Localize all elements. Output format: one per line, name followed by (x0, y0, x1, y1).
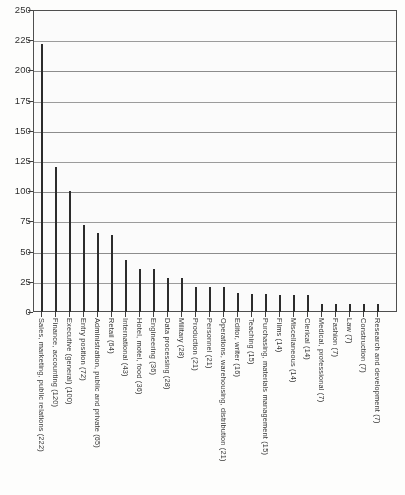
x-axis-category-label: Miscellaneous (14) (290, 318, 297, 383)
x-tick-mark (307, 312, 308, 317)
y-axis-labels: 0255075100125150175200225250 (0, 0, 31, 495)
x-tick-mark (223, 312, 224, 317)
x-axis-category-label: Medical, professional (7) (318, 318, 325, 402)
y-tick-label: 100 (1, 186, 31, 196)
x-tick-mark (139, 312, 140, 317)
bar (321, 304, 323, 312)
bars-layer (33, 10, 397, 312)
x-axis-category-label: Editor, writer (16) (234, 318, 241, 377)
bar (41, 44, 43, 312)
y-tick-label: 125 (1, 156, 31, 166)
bar (181, 278, 183, 312)
bar (223, 287, 225, 312)
x-axis-category-label: Clerical (14) (304, 318, 311, 360)
y-tick-label: 200 (1, 65, 31, 75)
x-tick-mark (293, 312, 294, 317)
x-axis-category-label: Entry position (72) (80, 318, 87, 381)
bar (111, 235, 113, 312)
x-tick-mark (335, 312, 336, 317)
x-tick-mark (321, 312, 322, 317)
bar (83, 225, 85, 312)
x-tick-mark (167, 312, 168, 317)
x-tick-mark (363, 312, 364, 317)
x-tick-mark (209, 312, 210, 317)
x-tick-mark (153, 312, 154, 317)
bar (335, 304, 337, 312)
x-axis-labels: Sales, marketing, public relations (222)… (33, 318, 397, 495)
bar (125, 260, 127, 312)
y-tick-label: 150 (1, 126, 31, 136)
x-tick-mark (237, 312, 238, 317)
bar (139, 269, 141, 312)
x-tick-mark (349, 312, 350, 317)
x-tick-mark (83, 312, 84, 317)
bar (153, 269, 155, 312)
x-tick-mark (41, 312, 42, 317)
x-tick-mark (111, 312, 112, 317)
y-tick-label: 0 (1, 307, 31, 317)
x-tick-mark (377, 312, 378, 317)
y-tick-label: 50 (1, 247, 31, 257)
x-axis-category-label: Production (21) (192, 318, 199, 371)
x-axis-category-label: Sales, marketing, public relations (222) (38, 318, 45, 452)
x-tick-mark (279, 312, 280, 317)
x-tick-mark (251, 312, 252, 317)
bar (251, 294, 253, 312)
bar (167, 278, 169, 312)
bar (237, 293, 239, 312)
x-axis-category-label: Administration, public and private (65) (94, 318, 101, 448)
x-axis-category-label: Hotel, motel, food (36) (136, 318, 143, 395)
x-axis-category-label: Purchasing, materials management (15) (262, 318, 269, 455)
bar (293, 295, 295, 312)
bar (279, 295, 281, 312)
y-tick-label: 75 (1, 216, 31, 226)
x-axis-category-label: Engineering (36) (150, 318, 157, 375)
x-axis-category-label: Executive (general) (100) (66, 318, 73, 405)
x-tick-mark (55, 312, 56, 317)
x-axis-category-label: Operations, warehousing, distribution (2… (220, 318, 227, 462)
x-axis-category-label: Retail (64) (108, 318, 115, 354)
bar (307, 295, 309, 312)
x-axis-category-label: Construction (7) (360, 318, 367, 373)
x-tick-mark (181, 312, 182, 317)
x-axis-category-label: Teaching (15) (248, 318, 255, 365)
bar (363, 304, 365, 312)
bar (265, 294, 267, 312)
bar-chart: 0255075100125150175200225250 Sales, mark… (0, 0, 405, 495)
x-axis-category-label: Data processing (28) (164, 318, 171, 390)
x-tick-mark (265, 312, 266, 317)
y-tick-label: 175 (1, 96, 31, 106)
x-tick-mark (69, 312, 70, 317)
y-tick-label: 25 (1, 277, 31, 287)
x-axis-category-label: Personnel (21) (206, 318, 213, 369)
x-axis-category-label: Films (14) (276, 318, 283, 352)
bar (377, 304, 379, 312)
x-tick-mark (97, 312, 98, 317)
bar (209, 287, 211, 312)
bar (349, 304, 351, 312)
bar (97, 233, 99, 312)
y-tick-label: 250 (1, 5, 31, 15)
x-axis-category-label: Law (7) (346, 318, 353, 344)
x-axis-category-label: Research and development (7) (374, 318, 381, 424)
x-axis-category-label: Finance, accounting (120) (52, 318, 59, 407)
x-axis-category-label: Military (28) (178, 318, 185, 359)
x-axis-category-label: Fashion (7) (332, 318, 339, 357)
bar (55, 167, 57, 312)
bar (69, 191, 71, 312)
y-tick-label: 225 (1, 35, 31, 45)
x-axis-category-label: International (43) (122, 318, 129, 377)
x-tick-mark (195, 312, 196, 317)
bar (195, 287, 197, 312)
x-tick-mark (125, 312, 126, 317)
